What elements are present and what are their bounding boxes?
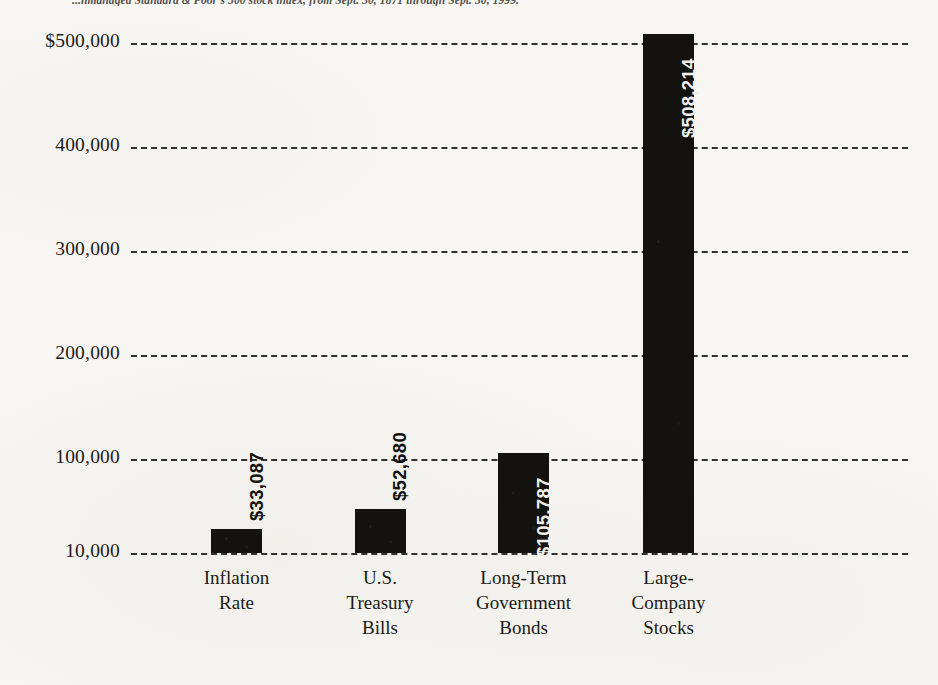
x-axis-category-label: Long-Term Government Bonds (444, 565, 604, 640)
gridline (131, 553, 908, 555)
x-axis-category-label: Large- Company Stocks (589, 565, 749, 640)
gridline (131, 355, 908, 357)
x-axis-category-label: Inflation Rate (157, 565, 317, 615)
y-axis-tick-label: 100,000 (10, 446, 120, 468)
gridline (131, 147, 908, 149)
y-axis-tick-label: 400,000 (10, 134, 120, 156)
gridline (131, 251, 908, 253)
y-axis-tick-label: 300,000 (10, 238, 120, 260)
bar-chart: $500,000400,000300,000200,000100,00010,0… (0, 0, 938, 685)
bar (211, 529, 262, 553)
x-axis-category-label: U.S. Treasury Bills (300, 565, 460, 640)
bar-value-label: $52,680 (389, 432, 411, 501)
bar (355, 509, 406, 553)
bar-value-label: $33,087 (246, 452, 268, 521)
bar-value-label: $508,214 (678, 59, 700, 139)
gridline (131, 43, 908, 45)
y-axis-tick-label: 10,000 (10, 540, 120, 562)
y-axis-tick-label: 200,000 (10, 342, 120, 364)
y-axis-tick-label: $500,000 (10, 30, 120, 52)
bar-value-label: $105,787 (533, 478, 555, 558)
